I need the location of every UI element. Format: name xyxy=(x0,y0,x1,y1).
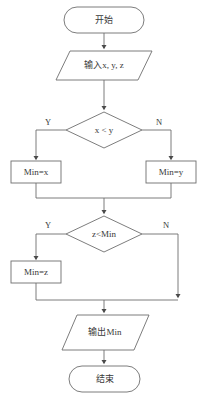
node-decision-x-less-than-y[interactable]: x < y xyxy=(66,112,142,148)
node-decision-z-less-than-min[interactable]: z<Min xyxy=(66,216,142,252)
node-start[interactable]: 开始 xyxy=(64,7,144,33)
decision2-yes-branch-label: Y xyxy=(45,220,51,230)
decision2-label: z<Min xyxy=(92,229,117,239)
input-label: 输入x, y, z xyxy=(84,59,123,70)
node-output[interactable]: 输出Min xyxy=(62,315,149,350)
decision1-yes-branch-label: Y xyxy=(45,117,51,127)
connector-decision1-no-to-min-y xyxy=(142,130,171,159)
connector-min-z-to-merge2 xyxy=(36,283,104,300)
assign-min-z-label: Min=z xyxy=(24,267,48,277)
output-label: 输出Min xyxy=(88,326,122,337)
connector-min-x-to-merge1 xyxy=(36,183,104,198)
node-end[interactable]: 结束 xyxy=(69,366,140,392)
decision1-label: x < y xyxy=(95,125,114,135)
connector-min-y-to-merge1 xyxy=(104,183,171,198)
connector-decision2-yes-to-min-z xyxy=(36,234,66,259)
end-label: 结束 xyxy=(96,373,114,384)
decision1-no-branch-label: N xyxy=(156,117,162,127)
node-input[interactable]: 输入x, y, z xyxy=(56,51,152,80)
assign-min-x-label: Min=x xyxy=(24,167,49,177)
connector-decision1-yes-to-min-x xyxy=(36,130,66,159)
assign-min-y-label: Min=y xyxy=(159,167,184,177)
node-assign-min-x[interactable]: Min=x xyxy=(11,161,61,183)
node-assign-min-y[interactable]: Min=y xyxy=(146,161,196,183)
node-assign-min-z[interactable]: Min=z xyxy=(11,261,61,283)
decision2-no-branch-label: N xyxy=(163,220,169,230)
start-label: 开始 xyxy=(95,14,113,25)
connector-decision2-no-to-merge2 xyxy=(142,234,178,297)
flowchart-diagram: 开始 输入x, y, z x < y Y N Min=x Min=y z<Min… xyxy=(0,0,201,403)
